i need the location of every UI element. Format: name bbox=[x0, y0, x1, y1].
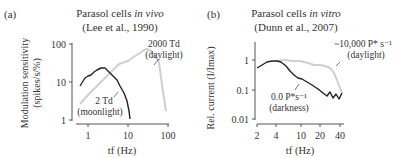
panel-a-label: (a) bbox=[4, 8, 17, 21]
panel-a-moonlight-label-2: (moonlight) bbox=[77, 107, 122, 118]
panel-b-darkness-label-2: (darkness) bbox=[269, 103, 309, 114]
panel-a: (a) Parasol cells in vivo (Lee et al., 1… bbox=[4, 7, 183, 157]
panel-b-xlabel: tf (Hz) bbox=[286, 145, 315, 157]
panel-a-moonlight-label-1: 2 Td bbox=[95, 96, 113, 106]
panel-b-xtick: 4 bbox=[274, 130, 279, 141]
panel-a-ylabel-line2: (spikes/s/%) bbox=[31, 58, 43, 107]
panel-a-xtick: 1 bbox=[86, 130, 91, 141]
panel-b-daylight-curve bbox=[276, 60, 342, 93]
panel-b: (b) Parasol cells in vitro (Dunn et al.,… bbox=[205, 7, 392, 157]
panel-a-ytick: 1 bbox=[61, 115, 66, 126]
panel-b-xtick: 10 bbox=[296, 130, 306, 141]
panel-a-xtick: 100 bbox=[161, 130, 176, 141]
panel-b-ylabel: Rel. current (I/Imax) bbox=[205, 46, 217, 129]
panel-b-darkness-label-1: 0.0 P*s⁻¹ bbox=[271, 92, 307, 102]
panel-a-xtick: 10 bbox=[123, 130, 133, 141]
panel-b-label: (b) bbox=[207, 8, 220, 21]
panel-b-subtitle: (Dunn et al., 2007) bbox=[254, 21, 338, 34]
panel-b-daylight-label-2: (daylight) bbox=[347, 50, 384, 61]
panel-a-daylight-label-2: (daylight) bbox=[145, 50, 182, 61]
panel-a-daylight-label-1: 2000 Td bbox=[148, 39, 180, 49]
panel-b-ytick: 0.01 bbox=[232, 114, 250, 125]
panel-b-xtick: 2 bbox=[255, 130, 260, 141]
panel-a-xlabel: tf (Hz) bbox=[108, 145, 137, 157]
panel-a-ytick: 100 bbox=[51, 39, 66, 50]
panel-a-subtitle: (Lee et al., 1990) bbox=[82, 21, 158, 34]
panel-b-xtick: 20 bbox=[315, 130, 325, 141]
panel-b-ytick: 1 bbox=[244, 55, 249, 66]
panel-a-ytick: 10 bbox=[56, 77, 66, 88]
panel-b-ytick: 0.1 bbox=[237, 85, 250, 96]
figure: (a) Parasol cells in vivo (Lee et al., 1… bbox=[0, 0, 401, 158]
panel-b-daylight-label-1: ~10,000 P* s⁻¹ bbox=[334, 39, 392, 49]
panel-b-title: Parasol cells in vitro bbox=[251, 7, 341, 19]
panel-a-title: Parasol cells in vivo bbox=[76, 7, 164, 19]
panel-b-xtick: 40 bbox=[335, 130, 345, 141]
panel-a-ylabel-line1: Modulation sensitivity bbox=[19, 38, 30, 128]
